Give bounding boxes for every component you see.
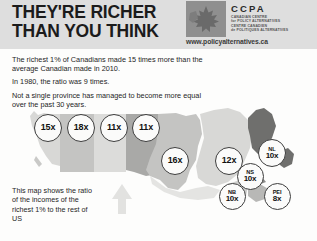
ratio-bubble-mb[interactable]: 11x	[132, 114, 160, 142]
map-region-vancouver-island	[34, 156, 42, 167]
bubble-ratio-value: 8x	[273, 195, 282, 204]
bubble-ratio-value: 10x	[266, 152, 279, 161]
infographic-root: THEY'RE RICHER THAN YOU THINK CCPA CANAD…	[0, 0, 317, 241]
page-title-line-2: THAN YOU THINK	[12, 22, 192, 41]
logo-subtitle: CANADIAN CENTRE for POLICY ALTERNATIVES …	[231, 15, 317, 32]
body-paragraph-2: In 1980, the ratio was 9 times.	[12, 77, 217, 86]
maple-leaf-icon	[186, 1, 226, 37]
website-url[interactable]: www.policyalternatives.ca	[186, 38, 317, 45]
up-arrow-icon	[112, 184, 132, 214]
bubble-ratio-value: 12x	[222, 156, 236, 166]
page-title: THEY'RE RICHER THAN YOU THINK	[12, 3, 192, 41]
ccpa-logo: CCPA CANADIAN CENTRE for POLICY ALTERNAT…	[186, 1, 317, 48]
logo-acronym: CCPA	[231, 3, 317, 14]
bubble-ratio-value: 15x	[41, 123, 55, 133]
logo-text-block: CCPA CANADIAN CENTRE for POLICY ALTERNAT…	[231, 3, 317, 32]
body-copy: The richest 1% of Canadians made 15 time…	[12, 55, 217, 109]
body-paragraph-1: The richest 1% of Canadians made 15 time…	[12, 55, 217, 73]
ratio-bubble-pei[interactable]: PEI8x	[264, 183, 291, 210]
bubble-ratio-value: 18x	[74, 123, 88, 133]
ratio-bubble-ab[interactable]: 18x	[67, 114, 95, 142]
bubble-ratio-value: 10x	[244, 175, 257, 184]
ratio-bubble-on[interactable]: 16x	[161, 147, 189, 175]
logo-subtitle-line-4: de POLITIQUES ALTERNATIVES	[231, 28, 317, 32]
bubble-ratio-value: 10x	[226, 195, 239, 204]
ratio-bubble-sk[interactable]: 11x	[100, 114, 128, 142]
bubble-ratio-value: 16x	[168, 156, 182, 166]
bubble-ratio-value: 11x	[139, 123, 153, 133]
page-title-line-1: THEY'RE RICHER	[12, 3, 192, 22]
ratio-bubble-bc[interactable]: 15x	[34, 114, 62, 142]
ratio-bubble-nl[interactable]: NL10x	[258, 139, 286, 167]
bubble-ratio-value: 11x	[107, 123, 121, 133]
map-caption: This map shows the ratio of the incomes …	[12, 186, 98, 223]
ratio-bubble-nb[interactable]: NB10x	[219, 183, 246, 210]
